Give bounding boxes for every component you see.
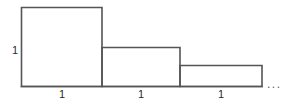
bar-3-outline: [180, 66, 262, 87]
continuation-ellipsis: ...: [267, 78, 282, 90]
x-axis-label-bar-2: 1: [129, 89, 153, 100]
y-axis-height-label: 1: [10, 45, 20, 56]
bar-outlines: [22, 8, 263, 87]
x-axis-label-bar-3: 1: [209, 89, 233, 100]
bar-1-outline: [22, 8, 103, 87]
x-axis-label-bar-1: 1: [50, 89, 74, 100]
bar-2-outline: [102, 48, 180, 87]
bar-chart-figure: 1 1 1 1 ...: [0, 0, 299, 104]
